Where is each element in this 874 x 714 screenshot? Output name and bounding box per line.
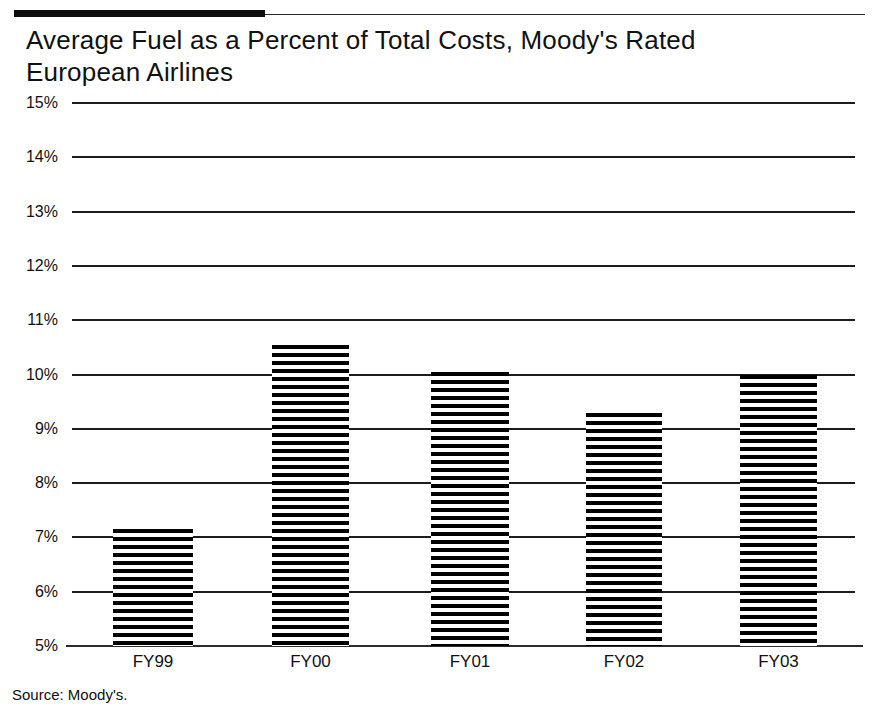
y-axis-tick-label: 14%	[0, 149, 58, 165]
gridline	[72, 211, 855, 213]
y-axis-tick-label: 8%	[0, 475, 58, 491]
y-axis-tick-label: 6%	[0, 584, 58, 600]
bar-fy01	[431, 372, 509, 646]
source-note: Source: Moody's.	[12, 686, 127, 704]
x-axis-tick-label: FY03	[740, 652, 817, 672]
y-axis-tick-label: 10%	[0, 367, 58, 383]
y-axis-tick-label: 11%	[0, 312, 58, 328]
y-axis-tick-label: 13%	[0, 204, 58, 220]
bar-fy03	[740, 375, 817, 647]
gridline	[72, 156, 855, 158]
gridline	[72, 319, 855, 321]
y-axis-tick-label: 15%	[0, 95, 58, 111]
y-axis-tick-label: 7%	[0, 529, 58, 545]
gridline	[72, 102, 855, 104]
bar-fy02	[586, 413, 662, 646]
x-axis-tick-label: FY02	[586, 652, 662, 672]
y-axis-tick-label: 12%	[0, 258, 58, 274]
bar-fy99	[113, 529, 193, 646]
y-axis-tick-label: 5%	[0, 638, 58, 654]
chart-plot-area: 15%14%13%12%11%10%9%8%7%6%5% FY99FY00FY0…	[0, 0, 874, 714]
y-axis-tick-label: 9%	[0, 421, 58, 437]
x-axis-tick-label: FY01	[431, 652, 509, 672]
x-axis-tick-label: FY00	[272, 652, 349, 672]
bar-fy00	[272, 345, 349, 646]
x-axis-tick-label: FY99	[113, 652, 193, 672]
gridline	[72, 265, 855, 267]
